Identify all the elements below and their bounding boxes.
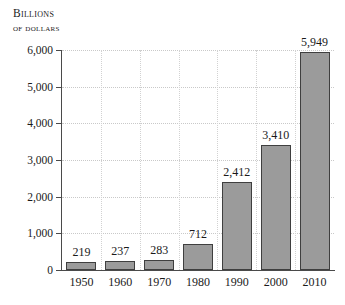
y-axis-tick xyxy=(56,160,62,161)
gridline-horizontal xyxy=(62,160,334,161)
gridline-vertical xyxy=(256,50,257,270)
gridline-horizontal xyxy=(62,87,334,88)
x-axis-label: 1960 xyxy=(108,275,132,290)
axis-title-line-2: of dollars xyxy=(13,21,60,34)
bar-chart: Billions of dollars 01,0002,0003,0004,00… xyxy=(0,0,345,305)
bar-value-label: 219 xyxy=(72,245,90,260)
y-axis-label: 2,000 xyxy=(27,191,53,203)
y-axis-label: 6,000 xyxy=(27,44,53,56)
gridline-vertical xyxy=(217,50,218,270)
axis-title-line-1: Billions xyxy=(13,7,60,20)
bar-value-label: 3,410 xyxy=(262,128,289,143)
y-axis-tick xyxy=(56,50,62,51)
x-axis-label: 1970 xyxy=(147,275,171,290)
bar[interactable] xyxy=(222,182,252,270)
y-axis-label: 4,000 xyxy=(27,117,53,129)
bar[interactable] xyxy=(261,145,291,270)
gridline-horizontal xyxy=(62,50,334,51)
gridline-vertical xyxy=(101,50,102,270)
bar[interactable] xyxy=(144,260,174,270)
gridline-horizontal xyxy=(62,123,334,124)
plot-area: 01,0002,0003,0004,0005,0006,000219195023… xyxy=(62,50,334,270)
axis-title: Billions of dollars xyxy=(13,7,60,34)
bar[interactable] xyxy=(66,262,96,270)
bar-value-label: 283 xyxy=(150,243,168,258)
bar-value-label: 2,412 xyxy=(223,165,250,180)
y-axis-tick xyxy=(56,87,62,88)
y-axis-tick xyxy=(56,197,62,198)
x-axis-line xyxy=(61,270,335,271)
y-axis-tick xyxy=(56,123,62,124)
bar[interactable] xyxy=(300,52,330,270)
y-axis-tick xyxy=(56,233,62,234)
x-axis-label: 2000 xyxy=(264,275,288,290)
y-axis-label: 5,000 xyxy=(27,81,53,93)
bar-value-label: 712 xyxy=(189,227,207,242)
x-axis-label: 1950 xyxy=(69,275,93,290)
x-axis-label: 1980 xyxy=(186,275,210,290)
y-axis-label: 0 xyxy=(47,264,53,276)
bar-value-label: 237 xyxy=(111,244,129,259)
bar[interactable] xyxy=(105,261,135,270)
y-axis-label: 1,000 xyxy=(27,227,53,239)
x-axis-label: 2010 xyxy=(303,275,327,290)
y-axis-label: 3,000 xyxy=(27,154,53,166)
gridline-vertical xyxy=(179,50,180,270)
x-axis-label: 1990 xyxy=(225,275,249,290)
y-axis-tick xyxy=(56,270,62,271)
bar-value-label: 5,949 xyxy=(301,35,328,50)
gridline-horizontal xyxy=(62,197,334,198)
gridline-vertical xyxy=(295,50,296,270)
bar[interactable] xyxy=(183,244,213,270)
gridline-vertical xyxy=(140,50,141,270)
